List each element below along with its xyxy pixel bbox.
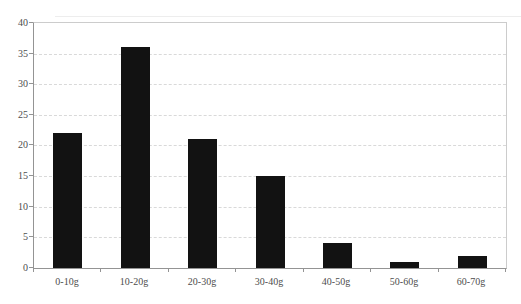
x-axis-tick-2 <box>168 268 169 272</box>
x-axis-tick-4 <box>303 268 304 272</box>
x-axis-tick-5 <box>370 268 371 272</box>
scan-artifact-line <box>55 16 521 17</box>
y-axis-tick-25 <box>29 114 33 115</box>
x-axis-label-60-70g: 60-70g <box>437 276 505 288</box>
y-axis-label-5: 5 <box>4 231 28 242</box>
bar-10-20g <box>121 47 150 268</box>
x-axis-label-10-20g: 10-20g <box>100 276 168 288</box>
y-axis-label-20: 20 <box>4 139 28 150</box>
y-axis-tick-40 <box>29 22 33 23</box>
x-axis-tick-3 <box>235 268 236 272</box>
y-axis-tick-20 <box>29 144 33 145</box>
gridline-y30 <box>34 84 506 85</box>
bar-60-70g <box>458 256 487 268</box>
x-axis-label-30-40g: 30-40g <box>235 276 303 288</box>
bar-chart-figure: 05101520253035400-10g10-20g20-30g30-40g4… <box>0 0 521 304</box>
y-axis-tick-30 <box>29 83 33 84</box>
bar-30-40g <box>256 176 285 268</box>
y-axis-label-40: 40 <box>4 17 28 28</box>
x-axis-tick-1 <box>100 268 101 272</box>
y-axis-label-30: 30 <box>4 78 28 89</box>
x-axis-tick-0 <box>33 268 34 272</box>
y-axis-label-35: 35 <box>4 48 28 59</box>
bar-20-30g <box>188 139 217 268</box>
x-axis-label-50-60g: 50-60g <box>370 276 438 288</box>
bar-40-50g <box>323 243 352 268</box>
y-axis-tick-35 <box>29 53 33 54</box>
bar-50-60g <box>390 262 419 268</box>
y-axis-label-0: 0 <box>4 262 28 273</box>
y-axis-tick-15 <box>29 175 33 176</box>
x-axis-label-40-50g: 40-50g <box>302 276 370 288</box>
x-axis-tick-7 <box>505 268 506 272</box>
plot-area <box>33 22 507 269</box>
x-axis-label-0-10g: 0-10g <box>33 276 101 288</box>
gridline-y35 <box>34 54 506 55</box>
gridline-y25 <box>34 115 506 116</box>
y-axis-tick-10 <box>29 206 33 207</box>
bar-0-10g <box>53 133 82 268</box>
y-axis-label-15: 15 <box>4 170 28 181</box>
y-axis-label-10: 10 <box>4 201 28 212</box>
x-axis-tick-6 <box>438 268 439 272</box>
y-axis-tick-5 <box>29 236 33 237</box>
gridline-y20 <box>34 145 506 146</box>
x-axis-label-20-30g: 20-30g <box>168 276 236 288</box>
y-axis-label-25: 25 <box>4 109 28 120</box>
